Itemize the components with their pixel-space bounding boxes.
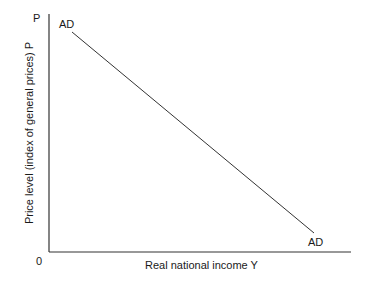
ad-end-label: AD	[308, 236, 323, 248]
y-axis-label: Price level (index of general prices) P	[23, 42, 35, 224]
ad-curve	[72, 32, 314, 233]
x-axis-label: Real national income Y	[145, 259, 258, 271]
origin-label: 0	[36, 255, 42, 267]
ad-start-label: AD	[59, 18, 74, 30]
y-axis-top-label: P	[33, 12, 40, 24]
